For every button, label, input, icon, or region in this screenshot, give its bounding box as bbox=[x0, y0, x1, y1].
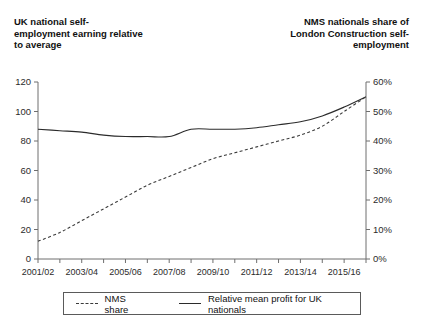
svg-text:0%: 0% bbox=[373, 253, 387, 264]
svg-text:60: 60 bbox=[20, 165, 31, 176]
svg-text:2009/10: 2009/10 bbox=[197, 267, 230, 277]
right-axis-ticks: 0%10%20%30%40%50%60% bbox=[366, 76, 393, 264]
svg-text:40: 40 bbox=[20, 194, 31, 205]
legend-item-nms-share: NMS share bbox=[76, 293, 151, 315]
chart-container: UK national self-employment earning rela… bbox=[0, 0, 423, 325]
svg-text:0: 0 bbox=[26, 253, 31, 264]
svg-text:100: 100 bbox=[15, 106, 31, 117]
series-line-relative-mean-profit bbox=[38, 97, 366, 137]
x-axis-ticks: 2001/022003/042005/062007/082009/102011/… bbox=[22, 259, 366, 277]
svg-text:2001/02: 2001/02 bbox=[22, 267, 55, 277]
chart-legend: NMS share Relative mean profit for UK na… bbox=[63, 292, 361, 315]
svg-text:2007/08: 2007/08 bbox=[153, 267, 186, 277]
svg-text:50%: 50% bbox=[373, 106, 393, 117]
legend-dashed-line-icon bbox=[76, 303, 98, 304]
series-line-nms-share bbox=[38, 97, 366, 242]
svg-text:60%: 60% bbox=[373, 76, 393, 87]
legend-item-relative-mean-profit: Relative mean profit for UK nationals bbox=[179, 293, 360, 315]
legend-label-nms-share: NMS share bbox=[105, 293, 152, 315]
legend-label-relative-mean-profit: Relative mean profit for UK nationals bbox=[208, 293, 360, 315]
svg-text:10%: 10% bbox=[373, 224, 393, 235]
plot-area: 020406080100120 0%10%20%30%40%50%60% 200… bbox=[0, 0, 423, 325]
svg-text:2003/04: 2003/04 bbox=[65, 267, 98, 277]
svg-text:120: 120 bbox=[15, 76, 31, 87]
legend-solid-line-icon bbox=[179, 303, 201, 304]
svg-text:2011/12: 2011/12 bbox=[241, 267, 273, 277]
svg-text:20%: 20% bbox=[373, 194, 393, 205]
svg-text:2013/14: 2013/14 bbox=[284, 267, 317, 277]
left-axis-ticks: 020406080100120 bbox=[15, 76, 38, 264]
svg-text:20: 20 bbox=[20, 224, 31, 235]
svg-text:30%: 30% bbox=[373, 165, 393, 176]
svg-text:2005/06: 2005/06 bbox=[109, 267, 142, 277]
svg-text:80: 80 bbox=[20, 135, 31, 146]
svg-text:2015/16: 2015/16 bbox=[328, 267, 361, 277]
svg-text:40%: 40% bbox=[373, 135, 393, 146]
